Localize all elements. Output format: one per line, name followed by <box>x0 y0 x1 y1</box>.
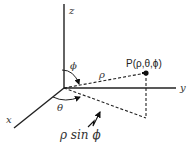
point-p-label: P(ρ,θ,ϕ) <box>126 58 162 69</box>
projection-label: ρ sin ϕ <box>59 128 101 142</box>
spherical-coordinates-diagram: z y x ρ P(ρ,θ,ϕ) ϕ θ ρ sin ϕ <box>0 0 196 150</box>
x-axis-label: x <box>6 114 12 125</box>
theta-arc <box>53 97 80 100</box>
phi-label: ϕ <box>70 60 77 71</box>
z-axis-label: z <box>68 5 75 16</box>
projection-pointer <box>88 112 100 127</box>
rho-line <box>64 73 146 88</box>
theta-label: θ <box>57 102 63 113</box>
y-axis-label: y <box>179 82 186 93</box>
projection-line <box>64 88 146 118</box>
rho-label: ρ <box>98 69 105 80</box>
